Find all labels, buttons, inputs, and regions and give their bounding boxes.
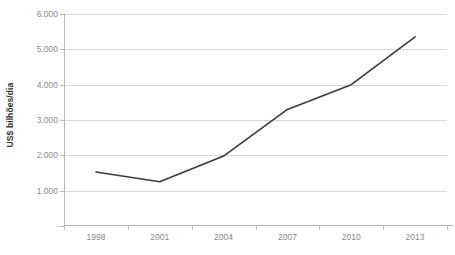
- y-tick-label: 2.000: [37, 150, 58, 160]
- x-tick-label: 2013: [406, 232, 425, 242]
- y-axis-title: US$ bilhões/dia: [0, 0, 20, 230]
- series-line-layer: [64, 14, 447, 226]
- x-tick-mark: [447, 226, 448, 230]
- y-tick-label: 6.000: [37, 9, 58, 19]
- x-tick-label: 2007: [278, 232, 297, 242]
- plot-area: [64, 14, 447, 226]
- y-tick-label: -: [56, 221, 58, 231]
- x-tick-label: 1998: [86, 232, 105, 242]
- y-tick-label: 3.000: [37, 115, 58, 125]
- y-tick-label: 1.000: [37, 186, 58, 196]
- y-axis-tick-labels: -1.0002.0003.0004.0005.0006.000: [18, 14, 62, 226]
- x-tick-label: 2001: [150, 232, 169, 242]
- x-axis-tick-labels: 199820012004200720102013: [64, 230, 447, 246]
- line-chart-figure: US$ bilhões/dia -1.0002.0003.0004.0005.0…: [0, 0, 455, 255]
- y-tick-label: 4.000: [37, 80, 58, 90]
- series-line: [96, 37, 415, 182]
- y-tick-label: 5.000: [37, 44, 58, 54]
- x-tick-label: 2004: [214, 232, 233, 242]
- x-tick-label: 2010: [342, 232, 361, 242]
- y-axis-title-label: US$ bilhões/dia: [5, 83, 15, 148]
